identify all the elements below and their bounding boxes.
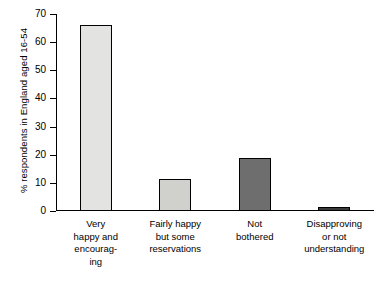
x-category-label-line: Not [209,218,301,231]
x-category-label-line: Disapproving [289,218,381,231]
y-tick-label: 70 [16,9,46,19]
x-category-label-line: ing [50,256,142,269]
bar [318,207,350,211]
x-category-label-line: Very [50,218,142,231]
x-category-label-line: encourag- [50,243,142,256]
bar [239,158,271,211]
bar [159,179,191,211]
y-tick-label: 10 [16,178,46,188]
y-tick-label: 30 [16,122,46,132]
bar-chart: % respondents in England aged 16-54 0102… [0,0,383,289]
x-category-label-line: happy and [50,231,142,244]
y-tick-label: 20 [16,150,46,160]
x-category-label-line: or not [289,231,381,244]
y-tick-label: 50 [16,65,46,75]
x-category-label-line: but some [130,231,222,244]
x-category-label: Fairly happybut somereservations [130,218,222,256]
plot-area [56,14,374,211]
y-tick-label: 40 [16,93,46,103]
bar [80,25,112,211]
x-category-label-line: bothered [209,231,301,244]
y-tick-label: 0 [16,206,46,216]
x-category-label: Notbothered [209,218,301,243]
y-tick-label: 60 [16,37,46,47]
x-category-label-line: Fairly happy [130,218,222,231]
y-tick-mark [50,211,56,212]
x-category-label-line: understanding [289,243,381,256]
x-category-label: Disapprovingor notunderstanding [289,218,381,256]
x-category-label-line: reservations [130,243,222,256]
x-category-label: Veryhappy andencourag-ing [50,218,142,268]
